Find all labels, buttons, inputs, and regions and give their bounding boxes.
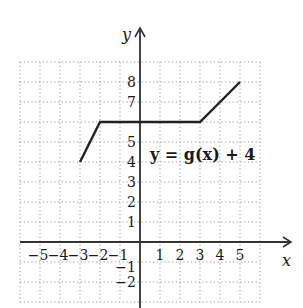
y-tick-label: 2 xyxy=(127,194,136,210)
equation-label: y = g(x) + 4 xyxy=(149,145,255,164)
x-tick-label: −3 xyxy=(68,247,89,263)
x-tick-label: 3 xyxy=(196,247,205,263)
tick-labels: −5−4−3−2−112345−2−11234578 xyxy=(28,74,245,290)
x-tick-label: 2 xyxy=(176,247,185,263)
x-tick-label: −2 xyxy=(88,247,109,263)
x-tick-label: 1 xyxy=(156,247,165,263)
y-tick-label: 8 xyxy=(127,74,136,90)
x-tick-label: 4 xyxy=(216,247,225,263)
y-tick-label: 1 xyxy=(127,214,136,230)
y-tick-label: −1 xyxy=(115,259,136,275)
y-tick-label: 7 xyxy=(127,94,136,110)
x-tick-label: 5 xyxy=(236,247,245,263)
x-tick-label: −5 xyxy=(28,247,49,263)
x-axis-label: x xyxy=(282,251,291,270)
function-graph: −5−4−3−2−112345−2−11234578 x y y = g(x) … xyxy=(0,0,303,308)
axes xyxy=(20,28,291,308)
y-tick-label: −2 xyxy=(115,274,136,290)
y-tick-label: 3 xyxy=(127,174,136,190)
y-tick-label: 5 xyxy=(127,134,136,150)
x-tick-label: −4 xyxy=(48,247,69,263)
y-axis-label: y xyxy=(121,25,132,44)
y-tick-label: 4 xyxy=(127,154,136,170)
